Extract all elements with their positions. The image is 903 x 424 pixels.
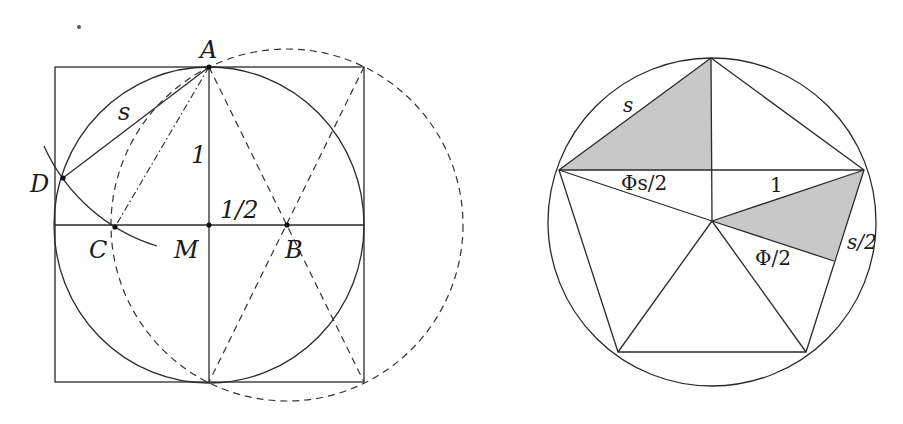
label-a: A	[198, 36, 217, 64]
label-m: M	[173, 236, 200, 264]
label-s-half: s/2	[847, 230, 877, 254]
label-c: C	[89, 236, 107, 264]
vertical-apothem	[711, 58, 712, 221]
point-d	[60, 175, 65, 180]
point-b	[284, 222, 289, 227]
label-one: 1	[191, 141, 206, 169]
point-m	[206, 222, 211, 227]
right-pentagon-figure: s Φs/2 1 s/2 Φ/2	[548, 58, 877, 386]
label-half: 1/2	[220, 196, 259, 224]
label-b: B	[284, 236, 303, 264]
label-s-right: s	[623, 93, 633, 117]
golden-ratio-pentagon-diagram: A D C M B s 1 1/2 s Φs/2 1 s/2 Φ/2	[0, 0, 903, 424]
label-phi-s-half: Φs/2	[621, 171, 667, 195]
label-one-right: 1	[770, 173, 783, 197]
radius-bottom-left	[618, 221, 712, 352]
arc-through-d-and-c	[44, 146, 157, 246]
segment-s-ad	[63, 67, 209, 178]
label-d: D	[29, 170, 49, 198]
point-c	[112, 224, 117, 229]
point-a	[206, 64, 211, 69]
label-s: s	[118, 98, 130, 126]
stray-dot	[77, 25, 81, 29]
left-construction-figure: A D C M B s 1 1/2	[29, 36, 463, 401]
label-phi-half: Φ/2	[755, 246, 791, 270]
